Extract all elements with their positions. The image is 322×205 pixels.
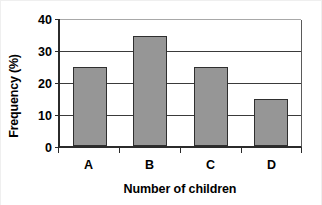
x-axis-tick-marks bbox=[58, 148, 302, 154]
bar-cell-c bbox=[181, 20, 241, 146]
plot-area bbox=[58, 20, 302, 148]
bar-chart-figure: Frequency (%) 40 30 20 10 0 bbox=[0, 0, 322, 205]
x-tick-mark-1 bbox=[119, 148, 120, 153]
x-tick-mark-2 bbox=[180, 148, 181, 153]
y-tick-label-30: 30 bbox=[26, 46, 52, 59]
x-tick-mark-3 bbox=[241, 148, 242, 153]
y-tick-label-20: 20 bbox=[26, 78, 52, 91]
x-tick-label-c: C bbox=[180, 156, 241, 174]
bar-cell-b bbox=[120, 20, 180, 146]
bar-d[interactable] bbox=[254, 99, 288, 146]
bar-series bbox=[60, 20, 301, 146]
bar-a[interactable] bbox=[73, 67, 107, 146]
x-axis-tick-labels: A B C D bbox=[58, 156, 302, 174]
x-tick-mark-4 bbox=[301, 148, 302, 153]
y-axis-tick-labels: 40 30 20 10 0 bbox=[26, 0, 52, 205]
scan-edge-left bbox=[0, 0, 1, 205]
y-axis-title: Frequency (%) bbox=[3, 22, 25, 170]
x-axis-title: Number of children bbox=[58, 182, 302, 196]
x-tick-mark-0 bbox=[58, 148, 59, 153]
y-tick-label-10: 10 bbox=[26, 110, 52, 123]
x-tick-label-a: A bbox=[58, 156, 119, 174]
x-tick-label-d: D bbox=[241, 156, 302, 174]
y-tick-label-40: 40 bbox=[26, 14, 52, 27]
x-tick-label-b: B bbox=[119, 156, 180, 174]
bar-b[interactable] bbox=[133, 36, 167, 146]
bar-cell-d bbox=[241, 20, 301, 146]
bar-cell-a bbox=[60, 20, 120, 146]
y-tick-label-0: 0 bbox=[26, 142, 52, 155]
bar-c[interactable] bbox=[194, 67, 228, 146]
